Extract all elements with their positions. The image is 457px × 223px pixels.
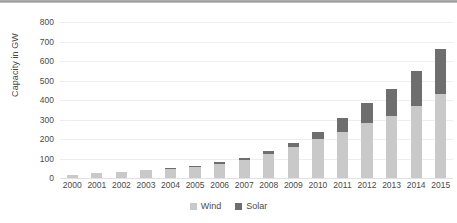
bar-group[interactable] [91,173,102,178]
y-axis-tick-label: 700 [28,38,54,47]
y-axis-tick-label: 100 [28,155,54,164]
bar-segment-solar[interactable] [435,49,446,93]
bar-segment-wind[interactable] [263,154,274,178]
y-axis-tick-label: 200 [28,135,54,144]
x-axis-tick-label: 2015 [428,181,453,190]
bar-segment-wind[interactable] [386,116,397,178]
y-axis-tick-labels: 0100200300400500600700800 [28,0,54,223]
bar-segment-wind[interactable] [214,164,225,178]
x-axis-tick-label: 2014 [404,181,429,190]
bar-group[interactable] [288,143,299,178]
bar-segment-wind[interactable] [189,167,200,179]
x-axis-tick-labels: 2000200120022003200420052006200720082009… [60,181,453,195]
y-axis-tick-label: 300 [28,116,54,125]
bar-segment-wind[interactable] [140,170,151,178]
x-axis-tick-label: 2003 [134,181,159,190]
bar-segment-wind[interactable] [91,173,102,178]
x-axis-tick-label: 2011 [330,181,355,190]
bar-segment-wind[interactable] [337,132,348,178]
chart-figure: Capacity in GW 0100200300400500600700800… [0,0,457,223]
x-axis-tick-label: 2002 [109,181,134,190]
bar-group[interactable] [239,158,250,178]
x-axis-tick-label: 2006 [207,181,232,190]
legend-swatch-wind [190,203,197,210]
bar-group[interactable] [411,71,422,178]
bar-segment-solar[interactable] [361,103,372,123]
y-axis-tick-label: 600 [28,57,54,66]
bar-group[interactable] [361,103,372,178]
bar-group[interactable] [386,89,397,178]
bar-group[interactable] [189,166,200,178]
x-axis-tick-label: 2004 [158,181,183,190]
bar-segment-wind[interactable] [312,139,323,178]
bar-segment-wind[interactable] [239,160,250,178]
legend-item[interactable]: Solar [235,202,267,211]
legend-swatch-solar [235,203,242,210]
bar-group[interactable] [214,162,225,178]
y-axis-tick-label: 500 [28,77,54,86]
y-axis-tick-label: 800 [28,18,54,27]
legend-item[interactable]: Wind [190,202,222,211]
y-axis-tick-label: 400 [28,96,54,105]
x-axis-tick-label: 2000 [60,181,85,190]
bar-segment-solar[interactable] [411,71,422,106]
bar-group[interactable] [165,168,176,178]
bar-segment-solar[interactable] [337,118,348,132]
x-axis-tick-label: 2010 [306,181,331,190]
bar-segment-solar[interactable] [386,89,397,116]
bar-segment-wind[interactable] [116,172,127,178]
x-axis-tick-label: 2007 [232,181,257,190]
y-axis-tick-label: 0 [28,174,54,183]
x-axis-tick-label: 2001 [85,181,110,190]
bar-group[interactable] [67,175,78,179]
top-divider-rule [0,0,457,3]
x-axis-tick-label: 2009 [281,181,306,190]
y-axis-title: Capacity in GW [10,10,20,120]
x-axis-tick-label: 2013 [379,181,404,190]
bar-group[interactable] [435,49,446,178]
legend-label: Solar [246,202,267,211]
x-axis-tick-label: 2012 [355,181,380,190]
bar-segment-wind[interactable] [361,123,372,178]
x-axis-line [60,178,453,179]
bar-series-container [60,22,453,178]
chart-legend: WindSolar [0,202,457,211]
bar-segment-wind[interactable] [67,175,78,178]
bar-group[interactable] [116,172,127,178]
bar-segment-solar[interactable] [312,132,323,140]
x-axis-tick-label: 2008 [257,181,282,190]
bar-segment-wind[interactable] [435,94,446,178]
bar-group[interactable] [263,151,274,178]
bar-segment-wind[interactable] [411,106,422,178]
bar-group[interactable] [312,132,323,178]
bar-group[interactable] [337,118,348,178]
bar-segment-wind[interactable] [165,169,176,178]
legend-label: Wind [201,202,222,211]
x-axis-tick-label: 2005 [183,181,208,190]
bar-group[interactable] [140,170,151,178]
bar-segment-wind[interactable] [288,147,299,178]
